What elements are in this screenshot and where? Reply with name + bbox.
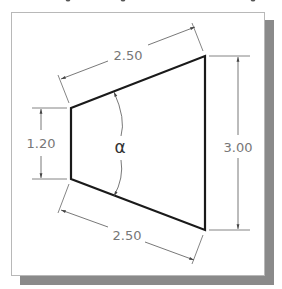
dim-left-label: 1.20 bbox=[27, 136, 56, 151]
angle-dimension: α bbox=[114, 92, 126, 196]
dimension-top: 2.50 bbox=[61, 27, 195, 79]
angle-alpha-label: α bbox=[114, 137, 125, 157]
dimension-right: 3.00 bbox=[224, 57, 253, 229]
dim-top-label: 2.50 bbox=[114, 48, 143, 63]
dim-bottom-label: 2.50 bbox=[113, 228, 142, 243]
trapezoid-outline bbox=[71, 56, 205, 230]
dimension-left: 1.20 bbox=[27, 109, 56, 178]
dim-right-label: 3.00 bbox=[224, 140, 253, 155]
clipped-top-text bbox=[66, 0, 256, 2]
trapezoid-drawing: 2.50 2.50 1.20 3.00 α bbox=[0, 0, 282, 289]
